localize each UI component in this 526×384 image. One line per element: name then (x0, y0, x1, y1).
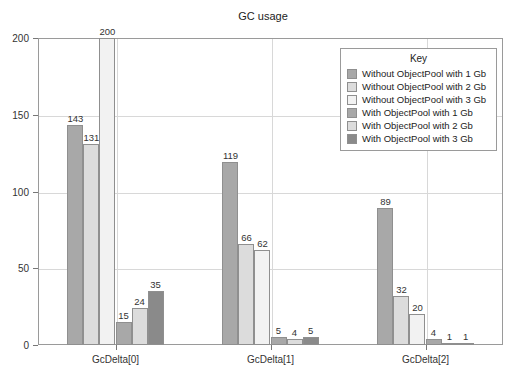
bar (222, 162, 238, 345)
bar-value-label: 35 (150, 279, 161, 290)
bar (148, 291, 164, 345)
y-tick-mark (33, 115, 38, 116)
legend-swatch-icon (347, 134, 357, 144)
bar-value-label: 200 (100, 26, 116, 37)
legend-swatch-icon (347, 95, 357, 105)
bar (287, 339, 303, 345)
bar (254, 250, 270, 345)
bar (83, 144, 99, 345)
legend-item-label: With ObjectPool with 1 Gb (362, 107, 473, 118)
bar (271, 337, 287, 345)
bar (409, 314, 425, 345)
x-tick-mark (426, 345, 427, 350)
legend-swatch-icon (347, 82, 357, 92)
bar (458, 343, 474, 345)
legend-item[interactable]: With ObjectPool with 3 Gb (341, 132, 496, 145)
x-category-label: GcDelta[2] (402, 354, 449, 365)
bar (99, 38, 115, 345)
bar-value-label: 4 (292, 327, 297, 338)
y-tick-mark (33, 268, 38, 269)
legend-item-label: With ObjectPool with 2 Gb (362, 120, 473, 131)
y-tick-mark (33, 192, 38, 193)
y-tick-label: 200 (0, 33, 29, 44)
legend-item-label: With ObjectPool with 3 Gb (362, 133, 473, 144)
x-tick-mark (116, 345, 117, 350)
bar-value-label: 5 (276, 325, 281, 336)
x-category-label: GcDelta[0] (92, 354, 139, 365)
legend-item-label: Without ObjectPool with 2 Gb (362, 81, 486, 92)
bar-value-label: 15 (118, 310, 129, 321)
legend-item[interactable]: With ObjectPool with 1 Gb (341, 106, 496, 119)
bar (303, 337, 319, 345)
bar-value-label: 32 (396, 284, 407, 295)
y-tick-label: 0 (0, 340, 29, 351)
legend-title: Key (341, 53, 496, 67)
bar-value-label: 131 (84, 132, 100, 143)
bar-value-label: 5 (308, 325, 313, 336)
x-category-label: GcDelta[1] (247, 354, 294, 365)
legend-item-label: Without ObjectPool with 1 Gb (362, 68, 486, 79)
y-tick-label: 150 (0, 109, 29, 120)
legend-swatch-icon (347, 108, 357, 118)
bar-value-label: 4 (431, 327, 436, 338)
y-tick-label: 50 (0, 263, 29, 274)
y-tick-mark (33, 345, 38, 346)
bar (426, 339, 442, 345)
bar (238, 244, 254, 345)
bar (116, 322, 132, 345)
legend-items: Without ObjectPool with 1 GbWithout Obje… (341, 67, 496, 145)
legend-item[interactable]: Without ObjectPool with 3 Gb (341, 93, 496, 106)
bar-value-label: 20 (412, 302, 423, 313)
bar-value-label: 24 (134, 296, 145, 307)
gc-usage-chart: GC usage 050100150200GcDelta[0]GcDelta[1… (0, 0, 526, 384)
x-tick-mark (271, 345, 272, 350)
chart-title: GC usage (0, 10, 526, 22)
bar-value-label: 1 (463, 331, 468, 342)
legend-swatch-icon (347, 69, 357, 79)
bar (393, 296, 409, 345)
bar-value-label: 66 (241, 232, 252, 243)
bar-value-label: 1 (447, 331, 452, 342)
bar (132, 308, 148, 345)
bar-value-label: 62 (257, 238, 268, 249)
bar (377, 208, 393, 345)
legend-item[interactable]: With ObjectPool with 2 Gb (341, 119, 496, 132)
legend-item[interactable]: Without ObjectPool with 1 Gb (341, 67, 496, 80)
legend-swatch-icon (347, 121, 357, 131)
gridline-x (117, 39, 118, 344)
bar (442, 343, 458, 345)
y-tick-label: 100 (0, 186, 29, 197)
legend-item-label: Without ObjectPool with 3 Gb (362, 94, 486, 105)
y-tick-mark (33, 38, 38, 39)
bar-value-label: 119 (223, 150, 238, 161)
bar-value-label: 89 (380, 196, 391, 207)
bar (67, 125, 83, 345)
bar-value-label: 143 (68, 113, 84, 124)
gridline-x (272, 39, 273, 344)
legend-item[interactable]: Without ObjectPool with 2 Gb (341, 80, 496, 93)
legend: Key Without ObjectPool with 1 GbWithout … (340, 48, 497, 151)
